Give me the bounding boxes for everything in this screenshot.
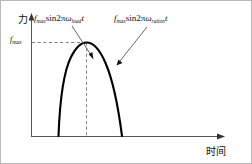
rated-formula-arrow bbox=[117, 27, 148, 66]
x-axis bbox=[32, 133, 226, 139]
rated-force-formula-label: fmaxsin2πωrationt bbox=[114, 14, 168, 23]
force-time-chart: 力 时间 fmax fmaxsin2πωloadt fmaxsin2πωrati… bbox=[0, 0, 252, 164]
y-axis bbox=[29, 13, 35, 137]
force-curve bbox=[59, 43, 123, 137]
load-force-formula-label: fmaxsin2πωloadt bbox=[34, 14, 84, 23]
x-axis-label: 时间 bbox=[206, 147, 226, 157]
y-axis-label: 力 bbox=[18, 15, 28, 25]
chart-canvas bbox=[1, 1, 252, 164]
fmax-tick-label: fmax bbox=[10, 36, 21, 44]
